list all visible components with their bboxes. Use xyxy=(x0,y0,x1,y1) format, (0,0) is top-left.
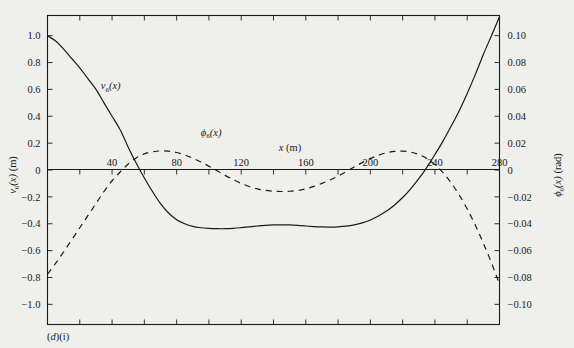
curve-label-v6: v6(x) xyxy=(101,80,121,94)
y-tick-label-left: 1.0 xyxy=(27,30,40,41)
y-tick-label-right: 0.08 xyxy=(508,57,526,68)
y-tick-label-right: −0.06 xyxy=(508,245,532,256)
y-tick-label-left: 0.4 xyxy=(27,111,41,122)
y-axis-left-tick-labels: 1.00.80.60.40.20−0.2−0.4−0.6−0.8−1.0 xyxy=(21,30,41,310)
x-tick-label: 80 xyxy=(171,157,182,168)
x-tick-label: 280 xyxy=(492,157,508,168)
y-tick-label-left: 0 xyxy=(35,165,40,176)
y-tick-label-left: −1.0 xyxy=(21,299,40,310)
figure-caption: (d)(i) xyxy=(47,331,70,343)
x-axis-tick-labels: 4080120160200240280 xyxy=(107,157,508,168)
y-tick-label-right: 0.10 xyxy=(508,30,526,41)
y-tick-label-left: −0.4 xyxy=(21,218,41,229)
figure-panel: 4080120160200240280 1.00.80.60.40.20−0.2… xyxy=(0,0,574,348)
y-tick-label-left: −0.2 xyxy=(21,192,40,203)
y-tick-label-left: 0.8 xyxy=(27,57,40,68)
y-tick-label-left: 0.6 xyxy=(27,84,40,95)
x-tick-label: 160 xyxy=(298,157,314,168)
y-tick-label-left: 0.2 xyxy=(27,138,40,149)
y-tick-label-right: 0.06 xyxy=(508,84,526,95)
y-tick-label-right: −0.02 xyxy=(508,192,532,203)
y-axis-right-tick-labels: 0.100.080.060.040.020−0.02−0.04−0.06−0.0… xyxy=(508,30,533,310)
y-axis-right-title: ϕ6(x) (rad) xyxy=(552,153,566,197)
y-tick-label-right: −0.04 xyxy=(508,218,533,229)
y-tick-label-right: 0 xyxy=(508,165,513,176)
y-tick-label-left: −0.8 xyxy=(21,272,40,283)
x-tick-label: 120 xyxy=(233,157,249,168)
series-curve-v6 xyxy=(48,17,500,229)
x-tick-label: 40 xyxy=(107,157,118,168)
curve-label-phi6: ϕ6(x) xyxy=(201,127,222,141)
y-tick-label-right: −0.10 xyxy=(508,299,532,310)
y-tick-label-right: 0.04 xyxy=(508,111,527,122)
x-axis-title: x (m) xyxy=(278,142,302,154)
y-axis-left-title: v6(x) (m) xyxy=(7,156,21,194)
y-tick-label-right: −0.08 xyxy=(508,272,532,283)
y-tick-label-left: −0.6 xyxy=(21,245,40,256)
y-tick-label-right: 0.02 xyxy=(508,138,526,149)
